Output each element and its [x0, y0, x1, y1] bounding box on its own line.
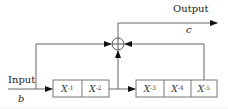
input-signal-label: b: [18, 94, 24, 104]
input-label: Input: [8, 75, 35, 85]
delay-cell-x-4: X-4: [164, 80, 191, 97]
box1-to-adder-wire: [109, 51, 118, 89]
delay-cell-x-3: X-3: [136, 80, 164, 97]
feedback-delay-diagram: Input b Output c X-1 X-2 X-3 X-4 X-5: [0, 0, 228, 109]
delay-cell-x-2: X-2: [82, 80, 109, 97]
output-wire: [118, 23, 217, 38]
output-signal-label: c: [186, 25, 192, 35]
delay-cell-x-5: X-5: [191, 80, 217, 97]
delay-cell-x-1: X-1: [53, 80, 82, 97]
feedback-wire: [125, 44, 204, 80]
output-label: Output: [173, 4, 209, 14]
